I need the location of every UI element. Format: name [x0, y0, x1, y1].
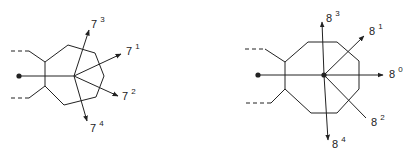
label-8-2: 82 — [371, 113, 385, 128]
label-7-1: 71 — [126, 42, 140, 57]
label-8-3: 83 — [326, 9, 340, 24]
octagon-ring — [285, 42, 359, 113]
diagram-canvas: 73 71 72 74 83 81 80 82 84 — [0, 0, 413, 157]
arrow-7-3 — [74, 30, 89, 76]
center-dot-right — [321, 72, 326, 77]
dashed-bond-bottom-right — [271, 89, 285, 103]
label-7-4: 74 — [90, 119, 104, 134]
arrow-7-4 — [74, 76, 87, 121]
heptagon-diagram — [11, 30, 121, 121]
octagon-diagram — [245, 22, 383, 140]
dashed-bond-bottom — [29, 86, 45, 98]
label-7-2: 72 — [122, 87, 136, 102]
arrow-7-2 — [74, 76, 118, 96]
label-7-3: 73 — [91, 15, 105, 30]
line-8-2 — [324, 75, 366, 118]
dashed-bond-top-right — [265, 49, 285, 62]
arrow-8-3 — [322, 22, 324, 75]
arrow-8-4 — [324, 75, 328, 140]
origin-dot-right — [255, 72, 260, 77]
label-8-4: 84 — [332, 135, 346, 150]
origin-dot-left — [16, 73, 21, 78]
label-8-0: 80 — [389, 65, 403, 80]
label-8-1: 81 — [369, 22, 383, 37]
arrow-7-1 — [74, 54, 121, 76]
dashed-bond-top — [29, 51, 45, 62]
